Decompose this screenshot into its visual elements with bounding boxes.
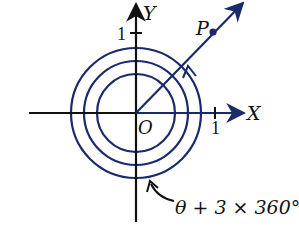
x-tick-label: 1 [211, 118, 220, 138]
x-axis-label: X [245, 102, 262, 124]
origin-label: O [138, 117, 153, 138]
point-p [209, 28, 216, 35]
polar-diagram: Y 1 X 1 O P θ + 3 × 360° [0, 0, 299, 236]
point-p-label: P [195, 17, 210, 39]
annotation-pointer [151, 184, 174, 201]
y-tick-label: 1 [117, 24, 126, 44]
angle-annotation: θ + 3 × 360° [175, 196, 299, 218]
y-axis-label: Y [143, 2, 158, 24]
